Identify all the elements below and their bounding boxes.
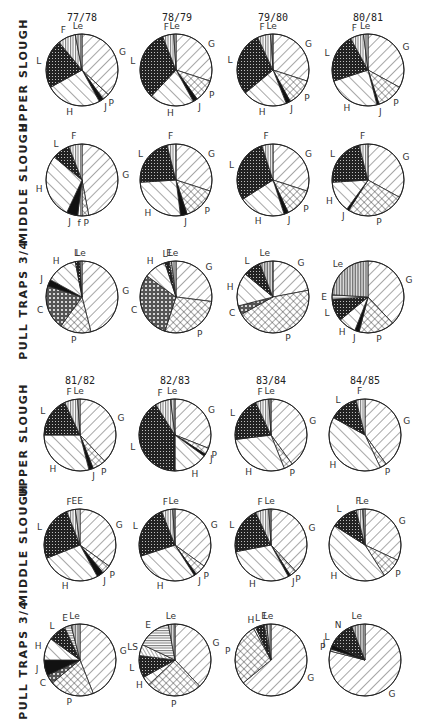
slice-label: G <box>122 286 129 296</box>
slice-label: H <box>249 579 256 589</box>
slice-label: H <box>66 107 73 117</box>
slice-label: P <box>171 699 177 709</box>
slice-label: H <box>145 208 152 218</box>
slice-label: G <box>208 149 215 159</box>
slice-label: C <box>229 308 235 318</box>
slice-label: Le <box>166 611 177 621</box>
slice-label: J <box>352 333 356 343</box>
slice-label: N <box>335 620 342 630</box>
slice-label: G <box>399 516 406 526</box>
column-title: 82/83 <box>160 375 190 386</box>
slice-label: P <box>376 217 382 227</box>
column-titles-block-2: 81/82 82/83 83/84 84/85 <box>65 375 380 386</box>
slice-label: H <box>248 615 255 625</box>
slice-label: F <box>357 386 362 396</box>
slice-label: P <box>108 98 114 108</box>
slice-label: L <box>229 160 234 170</box>
slice-label: H <box>50 464 57 474</box>
slice-label: Le <box>333 259 344 269</box>
row-label: MIDDLE SLOUGH <box>17 122 30 244</box>
pie-chart: GPJHLELe <box>321 259 412 344</box>
slice-label: L <box>325 308 330 318</box>
pie-chart: GPJHLFLe <box>130 386 217 479</box>
slice-label: J <box>209 454 213 464</box>
pie-chart: GPJLNLe <box>320 611 401 699</box>
slice-label: P <box>289 468 295 478</box>
slice-label: J <box>287 215 291 225</box>
slice-label: L <box>325 48 330 58</box>
pie-chart: GPHLFLe <box>329 496 406 582</box>
pie-chart-figure: 77/78 78/79 79/80 80/81 81/82 82/83 83/8… <box>0 0 422 719</box>
slice-label: H <box>157 581 164 591</box>
slice-label: C <box>37 305 43 315</box>
row-label: UPPER SLOUGH <box>17 383 30 497</box>
slice-label: J <box>197 576 201 586</box>
slice-label: P <box>197 329 203 339</box>
slice-label: F <box>158 388 163 398</box>
pie-chart: GPJHLFLe <box>325 21 410 117</box>
slice-label: G <box>298 258 305 268</box>
slice-label: Le <box>266 21 277 31</box>
slice-label: F <box>258 387 263 397</box>
slice-label: Le <box>168 496 179 506</box>
slice-label: F <box>61 25 66 35</box>
slice-label: C <box>131 305 137 315</box>
slice-label: L <box>130 442 135 452</box>
slice-label: G <box>122 170 129 180</box>
slice-label: F <box>164 22 169 32</box>
pie-grid: GPJHLFLeGPJHLFLeGPJHLFLeGPJHLFLeGPfJHLFG… <box>35 21 413 709</box>
slice-label: P <box>109 570 115 580</box>
pie-chart: GPJHLFLe <box>133 496 218 591</box>
pie-chart: GPJHLFLe <box>228 21 313 118</box>
slice-label: E <box>321 292 327 302</box>
slice-label: G <box>208 405 215 415</box>
slice-label: J <box>341 211 345 221</box>
slice-label: F <box>71 131 76 141</box>
slice-label: Le <box>263 611 274 621</box>
slice-label: L <box>138 149 143 159</box>
slice-label: H <box>227 282 234 292</box>
slice-label: G <box>206 262 213 272</box>
slice-label: F <box>260 22 265 32</box>
pie-chart: GPJHLF <box>229 131 312 226</box>
pie-chart: GPHLLSELe <box>127 611 219 709</box>
pie-chart: GPJHLFEE <box>37 496 123 591</box>
slice-label: F <box>67 387 72 397</box>
slice-label: H <box>326 196 333 206</box>
pie-chart: GPCJHLLe <box>37 248 129 345</box>
slice-label: G <box>119 47 126 57</box>
slice-label: Le <box>260 248 271 258</box>
slice-label: P <box>304 93 310 103</box>
slice-label: L <box>37 522 42 532</box>
slice-label: G <box>307 673 314 683</box>
slice-label: H <box>35 641 42 651</box>
slice-label: G <box>402 152 409 162</box>
slice-label: L <box>40 406 45 416</box>
slice-label: P <box>83 218 89 228</box>
slice-label: L <box>129 663 134 673</box>
row-label: UPPER SLOUGH <box>17 18 30 132</box>
slice-label: H <box>255 216 262 226</box>
slice-label: G <box>402 42 409 52</box>
slice-label: G <box>309 416 316 426</box>
row-label: PULL TRAPS 3/4 <box>17 240 30 359</box>
slice-label: H <box>147 256 154 266</box>
slice-label: L <box>229 520 234 530</box>
slice-label: J <box>91 471 95 481</box>
slice-label: G <box>403 416 410 426</box>
slice-label: G <box>120 646 127 656</box>
slice-label: F <box>360 131 365 141</box>
slice-label: G <box>211 520 218 530</box>
column-title: 81/82 <box>65 375 95 386</box>
slice-label: Le <box>264 496 275 506</box>
slice-label: Le <box>73 386 84 396</box>
slice-label: P <box>225 646 231 656</box>
slice-label: P <box>209 90 215 100</box>
pie-chart: GPJHLF <box>326 131 409 227</box>
slice-label: H <box>343 103 350 113</box>
column-titles-block-1: 77/78 78/79 79/80 80/81 <box>67 12 383 23</box>
slice-label: C <box>40 678 46 688</box>
slice-label: Le <box>69 611 80 621</box>
slice-label: J <box>378 107 382 117</box>
slice-label: H <box>62 581 69 591</box>
